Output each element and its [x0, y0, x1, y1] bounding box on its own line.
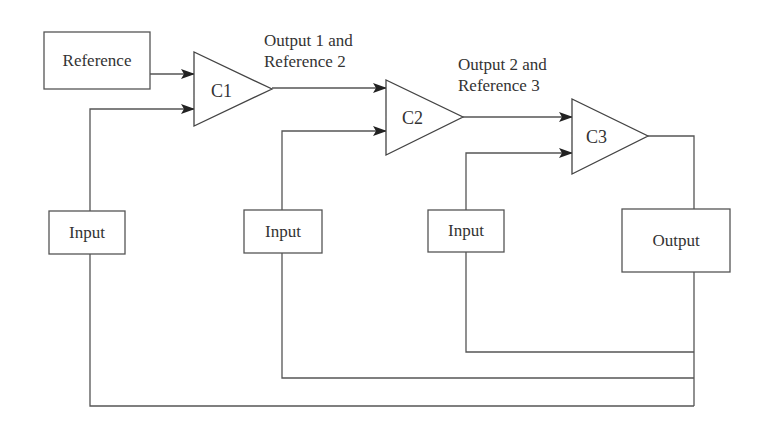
- edge-label-1-line1: Output 1 and: [264, 31, 353, 50]
- c3-to-output-line: [648, 136, 694, 209]
- output-label: Output: [652, 231, 700, 250]
- c2-c3-edge-label: Output 2 and Reference 3: [458, 55, 547, 95]
- edge-label-2-line2: Reference 3: [458, 76, 540, 95]
- c2-label: C2: [402, 108, 423, 128]
- input2-to-c2-arrow: [282, 131, 386, 210]
- reference-block: Reference: [44, 32, 150, 89]
- c1-label: C1: [211, 81, 232, 101]
- input1-label: Input: [69, 223, 105, 242]
- output-block: Output: [622, 209, 730, 272]
- comparator-c1: C1: [194, 52, 272, 126]
- feedback-to-input1: [90, 254, 694, 406]
- diagram-canvas: Reference C1 Output 1 and Reference 2 C2…: [0, 0, 762, 429]
- reference-label: Reference: [63, 51, 132, 70]
- edge-label-2-line1: Output 2 and: [458, 55, 547, 74]
- input1-to-c1-arrow: [90, 109, 194, 211]
- input3-to-c3-arrow: [466, 153, 572, 210]
- input2-label: Input: [265, 222, 301, 241]
- c1-c2-edge-label: Output 1 and Reference 2: [264, 31, 353, 71]
- input1-block: Input: [49, 211, 125, 254]
- comparator-c2: C2: [386, 80, 463, 155]
- input3-label: Input: [448, 221, 484, 240]
- edge-label-1-line2: Reference 2: [264, 52, 346, 71]
- input2-block: Input: [244, 210, 322, 253]
- comparator-c3: C3: [572, 99, 648, 174]
- input3-block: Input: [428, 210, 504, 252]
- c3-label: C3: [586, 127, 607, 147]
